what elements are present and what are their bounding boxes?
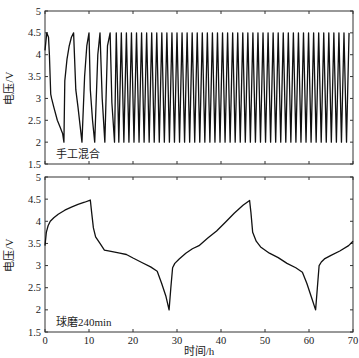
y-tick-label: 5 xyxy=(36,6,41,17)
bottom-y-axis-label: 电压/V xyxy=(3,238,15,271)
bottom-axes-frame xyxy=(45,177,353,332)
top-panel: 1.522.533.544.55 电压/V 手工混合 xyxy=(3,6,353,170)
x-tick-label: 20 xyxy=(128,335,139,346)
x-tick-label: 40 xyxy=(216,335,227,346)
y-tick-label: 1.5 xyxy=(28,327,41,338)
x-tick-label: 30 xyxy=(172,335,183,346)
bottom-panel-annotation: 球磨240min xyxy=(56,315,112,328)
x-tick-label: 50 xyxy=(260,335,271,346)
y-tick-label: 4.5 xyxy=(28,27,41,38)
x-axis-label: 时间/h xyxy=(184,345,215,357)
y-tick-label: 3.5 xyxy=(28,71,41,82)
x-tick-label: 0 xyxy=(42,335,47,346)
y-tick-label: 2.5 xyxy=(28,282,41,293)
y-tick-label: 5 xyxy=(36,172,41,183)
y-tick-label: 3 xyxy=(36,93,41,104)
bottom-voltage-curve xyxy=(45,200,353,310)
bottom-panel: 1.522.533.544.55010203040506070 电压/V 球磨2… xyxy=(3,172,358,358)
y-tick-label: 4.5 xyxy=(28,194,41,205)
y-tick-label: 4 xyxy=(36,49,42,60)
x-tick-label: 70 xyxy=(348,335,359,346)
top-y-axis-label: 电压/V xyxy=(3,71,15,104)
top-voltage-curve xyxy=(45,33,349,142)
x-tick-label: 60 xyxy=(304,335,315,346)
y-tick-label: 1.5 xyxy=(28,159,41,170)
top-panel-annotation: 手工混合 xyxy=(56,147,100,160)
y-tick-label: 3 xyxy=(36,260,41,271)
figure: 1.522.533.544.55 电压/V 手工混合 1.522.533.544… xyxy=(0,0,359,358)
y-tick-label: 3.5 xyxy=(28,238,41,249)
y-tick-label: 2 xyxy=(36,304,41,315)
y-tick-label: 2.5 xyxy=(28,115,41,126)
x-tick-label: 10 xyxy=(84,335,95,346)
top-plot-area: 1.522.533.544.55 xyxy=(28,6,353,170)
y-tick-label: 2 xyxy=(36,137,41,148)
y-tick-label: 4 xyxy=(36,216,42,227)
